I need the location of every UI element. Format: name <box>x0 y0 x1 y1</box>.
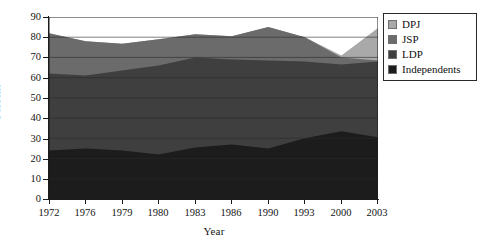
x-tick-label-1980: 1980 <box>148 207 169 218</box>
x-axis-line <box>48 199 379 200</box>
stacked-area-chart-figure: 90 80 70 60 50 40 30 20 10 0 Percent <box>0 0 482 251</box>
legend-label-dpj: DPJ <box>402 19 420 30</box>
y-tick-label-50: 50 <box>31 93 42 104</box>
x-tick-mark <box>231 200 232 204</box>
x-tick-label-1979: 1979 <box>112 207 133 218</box>
x-tick-label-1983: 1983 <box>185 207 206 218</box>
legend-label-jsp: JSP <box>402 34 419 45</box>
chart-legend: DPJ JSP LDP Independents <box>383 13 477 81</box>
x-tick-label-1986: 1986 <box>221 207 242 218</box>
x-tick-mark <box>158 200 159 204</box>
x-tick-label-2000: 2000 <box>331 207 352 218</box>
legend-item-independents[interactable]: Independents <box>388 62 472 76</box>
y-tick-label-40: 40 <box>31 113 42 124</box>
x-tick-label-1976: 1976 <box>75 207 96 218</box>
x-tick-mark <box>49 200 50 204</box>
x-tick-mark <box>268 200 269 204</box>
x-tick-mark <box>304 200 305 204</box>
legend-swatch-dpj <box>388 20 397 29</box>
legend-swatch-jsp <box>388 35 397 44</box>
x-tick-label-1993: 1993 <box>294 207 315 218</box>
x-tick-label-2003: 2003 <box>367 207 388 218</box>
x-tick-mark <box>85 200 86 204</box>
y-tick-label-60: 60 <box>31 73 42 84</box>
y-tick-label-30: 30 <box>31 134 42 145</box>
x-tick-mark <box>377 200 378 204</box>
y-tick-label-80: 80 <box>31 32 42 43</box>
legend-swatch-ldp <box>388 50 397 59</box>
y-tick-label-20: 20 <box>31 154 42 165</box>
legend-item-dpj[interactable]: DPJ <box>388 17 472 31</box>
legend-label-independents: Independents <box>402 64 461 75</box>
plot-area <box>49 17 378 199</box>
legend-swatch-independents <box>388 65 397 74</box>
area-chart-svg <box>49 17 378 199</box>
legend-item-jsp[interactable]: JSP <box>388 32 472 46</box>
y-tick-label-0: 0 <box>36 194 41 205</box>
x-tick-mark <box>341 200 342 204</box>
y-tick-label-10: 10 <box>31 174 42 185</box>
x-tick-label-1990: 1990 <box>258 207 279 218</box>
y-tick-label-70: 70 <box>31 52 42 63</box>
x-tick-mark <box>122 200 123 204</box>
y-axis-title: Percent <box>0 85 2 119</box>
x-axis-title: Year <box>0 225 428 237</box>
x-tick-label-1972: 1972 <box>39 207 60 218</box>
x-tick-mark <box>195 200 196 204</box>
y-axis-line <box>48 16 49 200</box>
y-tick-label-90: 90 <box>31 12 42 23</box>
legend-item-ldp[interactable]: LDP <box>388 47 472 61</box>
legend-label-ldp: LDP <box>402 49 423 60</box>
